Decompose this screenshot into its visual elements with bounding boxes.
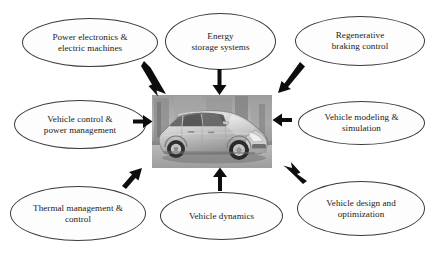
node-energy-storage-label: Energy storage systems — [185, 31, 255, 52]
node-regen-braking-label: Regenerative braking control — [326, 30, 395, 51]
node-vehicle-control-and-power-management[interactable]: Vehicle control & power management — [14, 100, 146, 149]
node-regenerative-braking-control[interactable]: Regenerative braking control — [295, 16, 425, 66]
node-vehicle-dynamics-label: Vehicle dynamics — [183, 211, 260, 222]
node-power-electronics-label: Power electronics & electric machines — [46, 32, 133, 53]
car-photo-graphic — [152, 95, 272, 168]
node-vehicle-modeling-and-simulation[interactable]: Vehicle modeling & simulation — [298, 101, 425, 145]
node-vehicle-design-label: Vehicle design and optimization — [320, 198, 402, 219]
hybrid-vehicle-photo — [152, 95, 272, 168]
node-energy-storage-systems[interactable]: Energy storage systems — [165, 13, 276, 70]
node-vehicle-dynamics[interactable]: Vehicle dynamics — [160, 192, 283, 240]
arrow-thermal-management-to-vehicle — [122, 168, 142, 189]
node-thermal-management-label: Thermal management & control — [27, 203, 129, 224]
node-vehicle-design-and-optimization[interactable]: Vehicle design and optimization — [297, 181, 425, 236]
node-thermal-management-and-control[interactable]: Thermal management & control — [10, 186, 146, 241]
node-vehicle-control-label: Vehicle control & power management — [38, 114, 122, 135]
arrow-regen-braking-to-vehicle — [278, 62, 305, 93]
diagram-canvas: Power electronics & electric machines En… — [0, 0, 432, 256]
node-power-electronics-and-electric-machines[interactable]: Power electronics & electric machines — [22, 18, 158, 67]
arrow-vehicle-design-to-vehicle — [283, 162, 307, 184]
arrow-energy-storage-to-vehicle — [213, 69, 227, 95]
node-vehicle-modeling-label: Vehicle modeling & simulation — [318, 112, 404, 133]
arrow-vehicle-dynamics-to-vehicle — [213, 168, 227, 192]
arrow-vehicle-modeling-to-vehicle — [273, 114, 293, 127]
arrow-power-electronics-to-vehicle — [141, 61, 166, 97]
